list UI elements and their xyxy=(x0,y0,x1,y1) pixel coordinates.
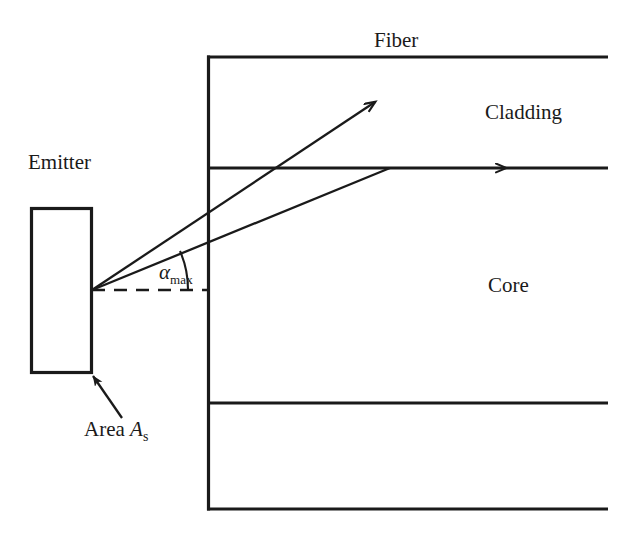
alpha-symbol: α xyxy=(159,260,170,284)
diagram-canvas xyxy=(0,0,619,542)
label-area-subscript: s xyxy=(143,429,148,444)
area-callout-arrow xyxy=(93,376,122,418)
fiber-coupling-diagram: Fiber Cladding Core Emitter Area As αmax xyxy=(0,0,619,542)
label-area-as: Area As xyxy=(84,419,148,444)
alpha-subscript: max xyxy=(170,272,193,287)
label-core: Core xyxy=(488,275,529,296)
label-alpha-max: αmax xyxy=(159,262,193,286)
escaping-ray xyxy=(92,102,375,290)
label-area-prefix: Area xyxy=(84,417,130,441)
guided-ray xyxy=(92,168,390,290)
emitter-rectangle xyxy=(32,209,92,373)
label-area-symbol: A xyxy=(130,417,143,441)
label-fiber: Fiber xyxy=(374,30,418,51)
label-emitter: Emitter xyxy=(28,152,91,173)
label-cladding: Cladding xyxy=(485,102,562,123)
